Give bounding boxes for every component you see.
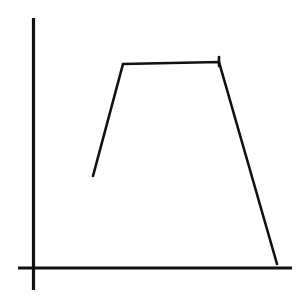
plot-canvas (0, 0, 306, 301)
chart-figure (0, 0, 306, 301)
plot-background (0, 0, 306, 301)
